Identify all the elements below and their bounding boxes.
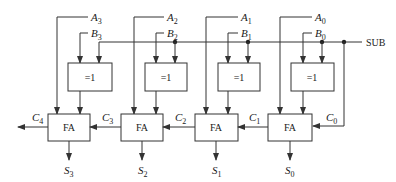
xor-gate-label: =1 bbox=[161, 72, 172, 83]
a0-label: A0 bbox=[314, 11, 326, 26]
full-adder-label: FA bbox=[284, 122, 297, 133]
stage-3: A3 B3 =1 FA C4 S3 bbox=[18, 11, 112, 179]
full-adder-label: FA bbox=[63, 122, 76, 133]
a1-label: A1 bbox=[240, 11, 252, 26]
c2-label: C2 bbox=[175, 111, 186, 126]
s3-label: S3 bbox=[64, 164, 74, 179]
c0-label: C0 bbox=[326, 111, 337, 126]
xor-gate-label: =1 bbox=[307, 72, 318, 83]
c4-label: C4 bbox=[32, 111, 43, 126]
xor-gate-label: =1 bbox=[234, 72, 245, 83]
stage-0: A0 B0 =1 FA C1 C0 S0 bbox=[238, 11, 337, 179]
sub-label: SUB bbox=[366, 37, 386, 48]
s2-label: S2 bbox=[138, 164, 148, 179]
b1-label: B1 bbox=[241, 27, 252, 42]
stage-2: A2 B2 =1 FA C3 S2 bbox=[90, 11, 187, 179]
a3-label: A3 bbox=[90, 11, 102, 26]
c3-label: C3 bbox=[102, 111, 113, 126]
b3-label: B3 bbox=[91, 27, 102, 42]
b2-label: B2 bbox=[167, 27, 178, 42]
a2-label: A2 bbox=[166, 11, 178, 26]
full-adder-label: FA bbox=[210, 122, 223, 133]
b0-label: B0 bbox=[315, 27, 326, 42]
xor-gate-label: =1 bbox=[85, 72, 96, 83]
adder-subtractor-diagram: SUB A3 B3 =1 FA C4 S3 A2 B2 =1 FA bbox=[0, 0, 396, 182]
s1-label: S1 bbox=[212, 164, 222, 179]
c1-label: C1 bbox=[249, 111, 260, 126]
s0-label: S0 bbox=[285, 164, 295, 179]
full-adder-label: FA bbox=[136, 122, 149, 133]
